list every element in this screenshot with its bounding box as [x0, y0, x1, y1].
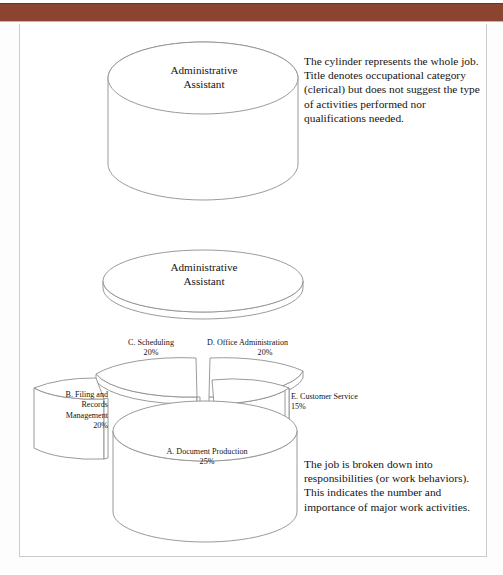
cylinder-top-title: Administrative Assistant [122, 64, 286, 91]
pie-label-d-pct: 20% [207, 348, 323, 358]
disc-title: Administrative Assistant [122, 261, 286, 288]
cylinder-top-title-line1: Administrative [170, 64, 237, 76]
pie-label-a: A. Document Production 25% [136, 447, 278, 468]
disc-title-line2: Assistant [183, 275, 224, 287]
pie-label-b-line1: B. Filing and [66, 390, 109, 399]
cylinder-top-title-line2: Assistant [183, 78, 224, 90]
disc-title-line1: Administrative [170, 261, 237, 273]
pie-label-e-name: E. Customer Service [291, 392, 358, 401]
pie-slice-c [96, 358, 200, 404]
pie-label-d-name: D. Office Administration [207, 338, 288, 347]
pie-label-e-pct: 15% [291, 402, 391, 412]
pie-label-b: B. Filing and Records Management 20% [24, 390, 108, 432]
pie-label-c-name: C. Scheduling [128, 338, 174, 347]
note-top: The cylinder represents the whole job. T… [304, 54, 484, 125]
note-bottom: The job is broken down into responsibili… [304, 457, 484, 514]
pie-label-e: E. Customer Service 15% [291, 392, 391, 413]
pie-label-d: D. Office Administration 20% [207, 338, 323, 359]
pie-label-a-pct: 25% [136, 457, 278, 467]
pie-label-c: C. Scheduling 20% [108, 338, 194, 359]
pie-label-b-line2: Records [81, 400, 108, 409]
pie-label-a-name: A. Document Production [166, 447, 247, 456]
pie-label-c-pct: 20% [108, 348, 194, 358]
pie-label-b-line3: Management [66, 411, 108, 420]
pie-label-b-pct: 20% [93, 421, 108, 430]
page-canvas: Administrative Assistant Administrative … [0, 0, 503, 575]
pie-slice-a [113, 401, 297, 542]
